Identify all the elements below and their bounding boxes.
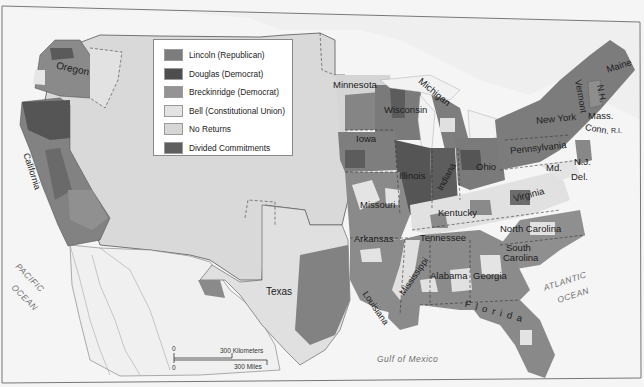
label-minnesota: Minnesota	[333, 80, 377, 90]
legend-label: Divided Commitments	[189, 143, 270, 153]
legend-swatch-no-returns	[164, 123, 183, 135]
label-tennessee: Tennessee	[420, 233, 466, 243]
election-map-1860: Lincoln (Republican) Douglas (Democrat) …	[0, 0, 644, 387]
legend-swatch-breckinridge	[164, 86, 183, 98]
legend-label: No Returns	[189, 124, 231, 134]
label-alabama: Alabama	[430, 271, 468, 281]
label-delaware: Del.	[571, 172, 588, 182]
scale-km-label: 300 Kilometers	[220, 347, 263, 354]
label-wisconsin: Wisconsin	[384, 105, 427, 115]
label-illinois: Illinois	[399, 171, 425, 181]
label-new-jersey: N.J.	[574, 157, 591, 167]
label-maryland: Md.	[546, 163, 562, 173]
scale-zero-miles: 0	[172, 364, 176, 371]
legend-item-douglas: Douglas (Democrat)	[164, 65, 292, 84]
map-legend: Lincoln (Republican) Douglas (Democrat) …	[153, 39, 293, 156]
label-iowa: Iowa	[356, 134, 376, 144]
legend-label: Douglas (Democrat)	[189, 69, 263, 79]
legend-item-breckinridge: Breckinridge (Democrat)	[164, 83, 292, 102]
label-missouri: Missouri	[360, 200, 395, 210]
scale-zero-km: 0	[172, 345, 176, 352]
scale-bar: 0 300 Kilometers 0 300 Miles	[172, 345, 282, 373]
label-north-carolina: North Carolina	[500, 224, 561, 234]
label-south-carolina-2: Carolina	[503, 253, 538, 263]
legend-swatch-bell	[164, 105, 183, 117]
legend-swatch-lincoln	[164, 49, 183, 61]
label-kentucky: Kentucky	[438, 208, 477, 218]
label-rhode-island: R.I.	[611, 127, 622, 134]
legend-label: Lincoln (Republican)	[189, 50, 265, 60]
legend-swatch-divided	[164, 142, 183, 154]
label-gulf-of-mexico: Gulf of Mexico	[377, 355, 438, 364]
legend-label: Bell (Constitutional Union)	[189, 106, 285, 116]
legend-label: Breckinridge (Democrat)	[189, 87, 279, 97]
map-canvas	[0, 0, 644, 387]
legend-swatch-douglas	[164, 68, 183, 80]
label-texas: Texas	[266, 287, 292, 297]
legend-item-bell: Bell (Constitutional Union)	[164, 102, 292, 121]
legend-item-lincoln: Lincoln (Republican)	[164, 46, 292, 65]
label-arkansas: Arkansas	[354, 234, 394, 244]
label-massachusetts: Mass.	[588, 111, 613, 121]
legend-item-divided: Divided Commitments	[164, 139, 292, 158]
label-new-hampshire: N.H.	[595, 84, 607, 103]
scale-miles-label: 300 Miles	[234, 363, 262, 370]
legend-item-no-returns: No Returns	[164, 120, 292, 139]
label-georgia: Georgia	[473, 271, 507, 281]
label-ohio: Ohio	[476, 162, 496, 172]
